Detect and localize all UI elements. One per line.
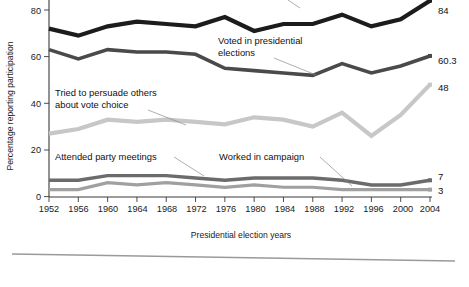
- x-tick-1996: 1996: [363, 204, 383, 214]
- x-tick-1952: 1952: [39, 204, 59, 214]
- series-end-markers: [428, 0, 432, 192]
- leader-line-persuade: [148, 110, 186, 125]
- x-tick-1956: 1956: [68, 204, 88, 214]
- annotation-voted-line2: elections: [218, 47, 255, 58]
- series-end-marker: [428, 178, 432, 182]
- series-line: [49, 1, 430, 36]
- y-tick-20: 20: [31, 145, 41, 155]
- x-tick-1972: 1972: [186, 204, 206, 214]
- x-tick-1960: 1960: [98, 204, 118, 214]
- y-tick-40: 40: [31, 99, 41, 109]
- y-axis-title: Percentage reporting participation: [5, 41, 15, 170]
- end-label-light: 48: [438, 82, 449, 93]
- participation-line-chart: Percentage reporting participation 80 60…: [0, 0, 469, 287]
- leader-line-meetings: [174, 157, 204, 176]
- x-tick-1984: 1984: [275, 204, 295, 214]
- annotation-campaign: Worked in campaign: [219, 151, 304, 162]
- y-tick-marks: [44, 10, 49, 197]
- end-label-campaign: 3: [438, 185, 443, 196]
- series-end-marker: [428, 0, 432, 3]
- y-tick-60: 60: [31, 52, 41, 62]
- end-label-meetings: 7: [438, 171, 443, 182]
- chart-container: Percentage reporting participation 80 60…: [0, 0, 469, 287]
- x-tick-1968: 1968: [157, 204, 177, 214]
- x-tick-1992: 1992: [334, 204, 354, 214]
- annotation-meetings: Attended party meetings: [55, 151, 157, 162]
- end-label-voted: 84: [438, 5, 449, 16]
- x-tick-marks: [49, 197, 430, 202]
- y-tick-80: 80: [31, 6, 41, 16]
- series-end-marker: [428, 54, 432, 58]
- x-tick-1988: 1988: [304, 204, 324, 214]
- annotation-persuade-line2: about vote choice: [55, 99, 129, 110]
- series-end-marker: [428, 188, 432, 192]
- annotation-voted-line1: Voted in presidential: [218, 35, 302, 46]
- leader-line-campaign: [320, 157, 352, 186]
- leader-line-topcut: [288, 0, 300, 8]
- x-tick-2004: 2004: [420, 204, 440, 214]
- x-tick-1964: 1964: [127, 204, 147, 214]
- x-tick-2000: 2000: [393, 204, 413, 214]
- annotation-persuade-line1: Tried to persuade others: [55, 87, 157, 98]
- x-tick-labels: 1952 1956 1960 1964 1968 1972 1976 1980 …: [39, 204, 440, 214]
- x-tick-1976: 1976: [216, 204, 236, 214]
- series-end-marker: [428, 83, 432, 87]
- x-tick-1980: 1980: [245, 204, 265, 214]
- y-tick-0: 0: [36, 192, 41, 202]
- end-label-persuade: 60.3: [438, 55, 457, 66]
- x-axis-title: Presidential election years: [191, 230, 291, 240]
- bottom-divider: [12, 254, 455, 261]
